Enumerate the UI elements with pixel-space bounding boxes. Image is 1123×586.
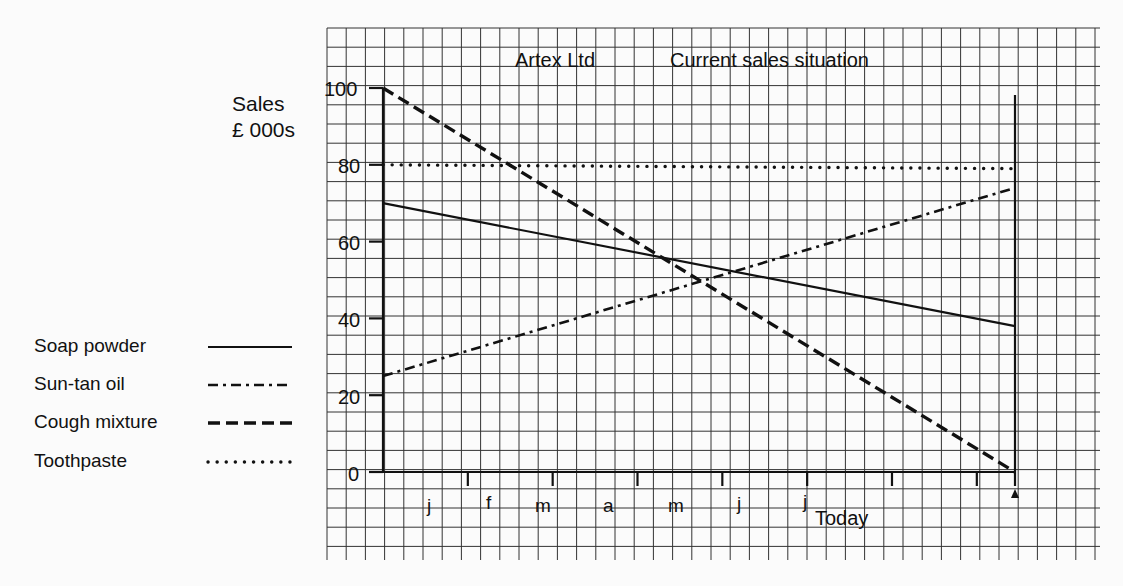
y-tick-60: 60	[338, 233, 360, 253]
series-soap-powder	[383, 203, 1015, 326]
y-tick-80: 80	[338, 156, 360, 176]
legend-swatches	[208, 347, 292, 462]
x-tick-jun: j	[737, 494, 741, 513]
chart-canvas	[0, 0, 1123, 586]
y-axis-label-line2: £ 000s	[232, 117, 295, 143]
x-tick-apr: a	[603, 496, 614, 515]
y-tick-40: 40	[338, 310, 360, 330]
graph-paper-grid	[327, 28, 1100, 560]
chart-title: Current sales situation	[670, 50, 869, 70]
x-tick-feb: f	[486, 493, 491, 512]
x-tick-jul: j	[803, 492, 807, 511]
x-tick-may: m	[668, 496, 684, 515]
y-tick-100: 100	[324, 79, 357, 99]
legend-soap-powder: Soap powder	[34, 335, 146, 357]
y-tick-0: 0	[348, 464, 359, 484]
y-axis-label-line1: Sales	[232, 91, 295, 117]
y-tick-20: 20	[338, 387, 360, 407]
x-tick-mar: m	[535, 496, 551, 515]
axes	[369, 88, 1019, 498]
legend-cough-mixture: Cough mixture	[34, 411, 158, 433]
legend-toothpaste: Toothpaste	[34, 450, 127, 472]
series-toothpaste	[383, 165, 1015, 169]
series-cough-mixture	[383, 88, 1015, 472]
series-lines	[383, 88, 1015, 472]
y-axis-label: Sales £ 000s	[232, 91, 295, 144]
legend-sun-tan-oil: Sun-tan oil	[34, 373, 125, 395]
company-title: Artex Ltd	[515, 50, 595, 70]
x-tick-jan: j	[427, 496, 431, 515]
today-label: Today	[815, 508, 868, 528]
